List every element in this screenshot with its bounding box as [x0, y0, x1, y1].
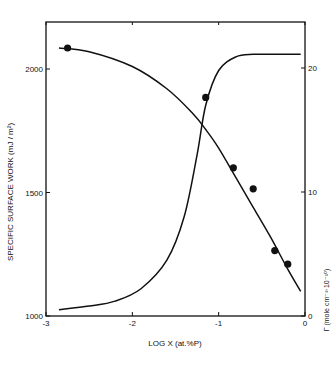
- y-tick-label-left: 1000: [25, 312, 43, 321]
- data-point: [230, 164, 237, 171]
- y-tick-label-right: 0: [308, 312, 313, 321]
- data-point: [250, 185, 257, 192]
- x-axis-label: LOG X (at.%P): [148, 339, 202, 348]
- series-curve: [59, 54, 301, 310]
- y-axis-label-right: Γ (mole cm⁻²·10⁻¹⁰): [323, 269, 331, 332]
- y-axis-label-left: SPECIFIC SURFACE WORK (mJ / m²): [6, 123, 15, 262]
- data-point: [202, 94, 209, 101]
- chart-canvas: -3-2-1010001500200001020 LOG X (at.%P) S…: [0, 0, 333, 367]
- data-curves: [59, 48, 301, 310]
- data-point: [64, 44, 71, 51]
- y-tick-label-left: 2000: [25, 65, 43, 74]
- x-tick-label: -2: [129, 319, 137, 328]
- x-tick-label: -3: [42, 319, 50, 328]
- data-points: [64, 44, 291, 267]
- y-tick-label-right: 20: [308, 64, 317, 73]
- series-curve: [59, 48, 301, 291]
- data-point: [271, 247, 278, 254]
- y-tick-label-left: 1500: [25, 189, 43, 198]
- axis-ticks: -3-2-1010001500200001020: [25, 22, 317, 328]
- y-tick-label-right: 10: [308, 188, 317, 197]
- plot-border: [46, 22, 305, 316]
- plot-frame: [46, 22, 305, 316]
- x-tick-label: -1: [215, 319, 223, 328]
- data-point: [284, 261, 291, 268]
